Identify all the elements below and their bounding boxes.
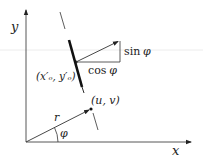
point-uv bbox=[89, 107, 92, 110]
angle-arc bbox=[55, 128, 59, 142]
cos-fn: cos bbox=[88, 64, 107, 77]
sin-label: sin φ bbox=[124, 45, 151, 58]
sin-var: φ bbox=[143, 45, 151, 58]
line-segment-bottom bbox=[93, 113, 98, 130]
point-uv-label: (u, v) bbox=[91, 94, 120, 107]
y-axis-label: y bbox=[10, 19, 19, 34]
x-axis-label: x bbox=[172, 143, 180, 158]
cos-var: φ bbox=[109, 64, 117, 77]
angle-label: φ bbox=[60, 127, 68, 140]
direction-vector bbox=[76, 42, 118, 63]
point-o-label: (x′ₒ, y′ₒ) bbox=[36, 70, 76, 82]
cos-label: cos φ bbox=[88, 64, 117, 77]
line-segment-top bbox=[60, 12, 65, 29]
diagram-canvas: y x r φ (x′ₒ, y′ₒ) (u, v) sin φ cos φ bbox=[0, 0, 203, 163]
thick-segment-tail bbox=[82, 87, 84, 93]
radius-label: r bbox=[54, 111, 60, 124]
sin-fn: sin bbox=[124, 45, 140, 58]
